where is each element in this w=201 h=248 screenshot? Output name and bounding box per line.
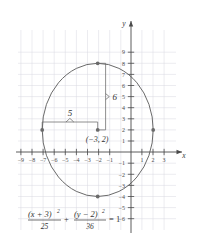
vertex-point-bottom bbox=[96, 195, 100, 199]
equation-denominator-1: 25 bbox=[41, 222, 49, 231]
ellipse-figure: −9 −8 −7 −6 −5 −4 −3 −2 −1 1 2 3 9 8 7 6… bbox=[0, 0, 201, 248]
equation-numerator-2: (y − 2) bbox=[74, 209, 98, 219]
x-tick-label: −3 bbox=[84, 157, 90, 163]
y-tick-label: −2 bbox=[119, 172, 125, 178]
x-tick-label: −5 bbox=[62, 157, 68, 163]
x-tick-label: 1 bbox=[140, 157, 143, 163]
y-tick-label: −4 bbox=[119, 194, 125, 200]
y-tick-label: 8 bbox=[122, 61, 125, 67]
semi-axis-horizontal-label: 5 bbox=[68, 108, 73, 118]
equation-exponent-2: 2 bbox=[102, 208, 105, 214]
x-axis-label: x bbox=[181, 151, 186, 160]
y-tick-label: 3 bbox=[122, 116, 125, 122]
equation-denominator-2: 36 bbox=[85, 222, 94, 231]
coordinate-plane-svg: −9 −8 −7 −6 −5 −4 −3 −2 −1 1 2 3 9 8 7 6… bbox=[0, 0, 201, 248]
covertex-point-left bbox=[40, 128, 44, 132]
x-tick-label: −2 bbox=[95, 157, 101, 163]
x-tick-label: −7 bbox=[40, 157, 46, 163]
y-tick-label: −3 bbox=[119, 183, 125, 189]
x-tick-label: −4 bbox=[73, 157, 79, 163]
x-tick-label: −6 bbox=[51, 157, 57, 163]
equation-numerator-1: (x + 3) bbox=[28, 209, 52, 219]
y-axis-label: y bbox=[121, 19, 126, 28]
semi-axis-vertical-label: 6 bbox=[113, 92, 118, 102]
axes bbox=[16, 21, 182, 233]
y-tick-label: 2 bbox=[122, 127, 125, 133]
y-tick-label: 9 bbox=[122, 49, 125, 55]
center-coordinate-label: (−3, 2) bbox=[86, 135, 109, 144]
y-tick-labels: 9 8 7 6 5 4 3 2 1 −1 −2 −3 −4 −5 −6 bbox=[119, 49, 125, 222]
y-tick-label: −5 bbox=[119, 205, 125, 211]
y-tick-label: 6 bbox=[122, 83, 125, 89]
semi-axis-horizontal-leader bbox=[42, 118, 97, 129]
x-tick-labels: −9 −8 −7 −6 −5 −4 −3 −2 −1 1 2 3 bbox=[18, 157, 166, 163]
y-tick-label: −1 bbox=[119, 160, 125, 166]
equation-exponent-1: 2 bbox=[57, 208, 60, 214]
y-tick-label: 7 bbox=[122, 72, 125, 78]
x-tick-label: 2 bbox=[152, 157, 155, 163]
x-tick-label: 3 bbox=[163, 157, 166, 163]
y-tick-label: 4 bbox=[122, 105, 125, 111]
x-axis-arrow bbox=[177, 150, 183, 154]
x-tick-label: −9 bbox=[18, 157, 24, 163]
ellipse-equation: (x + 3) 2 25 + (y − 2) 2 36 = 1 bbox=[28, 208, 120, 231]
center-point bbox=[96, 128, 100, 132]
x-tick-label: −1 bbox=[107, 157, 113, 163]
vertex-point-top bbox=[96, 61, 100, 65]
covertex-point-right bbox=[151, 128, 155, 132]
y-axis-arrow bbox=[129, 21, 133, 27]
equation-equals-one: = 1 bbox=[109, 214, 120, 224]
y-tick-label: 5 bbox=[122, 94, 125, 100]
y-tick-label: 1 bbox=[122, 138, 125, 144]
x-tick-label: −8 bbox=[29, 157, 35, 163]
equation-plus-sign: + bbox=[64, 214, 69, 224]
